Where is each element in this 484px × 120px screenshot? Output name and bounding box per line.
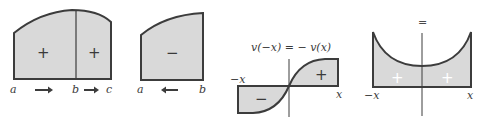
figure-reversed-limits: − a b xyxy=(137,13,206,96)
label-neg-x: −x xyxy=(230,73,246,86)
figure-additivity: + + a b c xyxy=(10,10,112,96)
label-a: a xyxy=(137,83,144,96)
sign-plus-left: + xyxy=(391,69,404,87)
odd-function-title: v(−x) = − v(x) xyxy=(251,41,331,54)
sign-plus-right: + xyxy=(441,69,454,87)
arrow-right-icon xyxy=(35,87,53,94)
figure-odd-function: v(−x) = − v(x) + − −x x xyxy=(230,41,343,117)
label-neg-x: −x xyxy=(364,89,380,102)
arrow-right-icon xyxy=(84,87,99,94)
label-a: a xyxy=(10,83,17,96)
region-positive xyxy=(289,59,338,86)
label-x: x xyxy=(467,89,474,102)
sign-right: + xyxy=(88,44,101,62)
sign-minus: − xyxy=(255,90,268,108)
label-c: c xyxy=(106,83,112,96)
even-function-title: = xyxy=(418,16,427,29)
arrow-left-icon xyxy=(161,87,178,94)
sign-minus: − xyxy=(166,44,179,62)
label-x: x xyxy=(336,88,343,101)
sign-left: + xyxy=(37,44,50,62)
integral-properties-diagram: + + a b c − a b v(−x) = − v(x) + − −x x xyxy=(0,0,484,120)
label-b: b xyxy=(72,83,79,96)
sign-plus: + xyxy=(315,66,328,84)
figure-even-function: = + + −x x xyxy=(364,16,474,116)
label-b: b xyxy=(199,83,206,96)
